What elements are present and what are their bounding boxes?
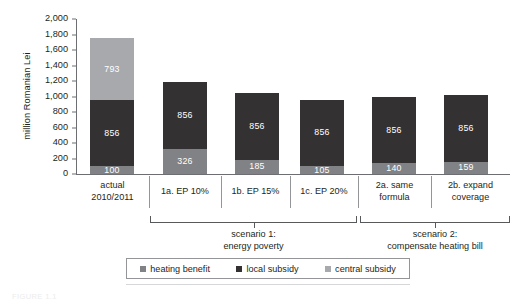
bar-segment-heating-benefit: 185: [235, 160, 279, 174]
category-label-line: 1a. EP 10%: [161, 186, 209, 198]
legend-item-label: local subsidy: [246, 264, 298, 274]
legend-item[interactable]: heating benefit: [140, 264, 210, 274]
y-axis-tick-label: 0: [63, 169, 68, 178]
category-label: 2b. expandcoverage: [431, 175, 510, 208]
stacked-bar-chart: million Romanian Lei 02004006008001,0001…: [0, 0, 518, 301]
category-divider: [221, 176, 222, 208]
category-label: 1b. EP 15%: [221, 175, 290, 208]
bar-segment-value: 856: [386, 126, 401, 135]
bar-stack: 856159: [444, 95, 488, 174]
y-axis-tick-label: 200: [53, 154, 68, 163]
category-divider: [431, 176, 432, 208]
y-axis-tick-label: 400: [53, 138, 68, 147]
chart-legend: heating benefitlocal subsidycentral subs…: [126, 258, 410, 279]
bar-stack: 856185: [235, 93, 279, 174]
legend-item-label: central subsidy: [335, 264, 396, 274]
bar-segment-value: 185: [249, 162, 264, 171]
bar-segment-value: 140: [386, 164, 401, 173]
y-axis-tick-label: 1,600: [45, 45, 68, 54]
bar-segment-value: 856: [249, 122, 264, 131]
y-axis-ticks: 02004006008001,0001,2001,4001,6001,8002,…: [30, 0, 76, 301]
scenario-label-line: scenario 2:: [335, 229, 518, 241]
legend-swatch-icon: [236, 266, 242, 272]
scenario-label: scenario 1:energy poverty: [150, 229, 357, 252]
category-label-line: coverage: [452, 192, 489, 204]
bar-segment-value: 793: [104, 65, 119, 74]
caption-rule: [126, 284, 410, 285]
bar-segment-heating-benefit: 140: [372, 163, 416, 174]
bar-segment-central-subsidy: 793: [90, 38, 134, 99]
bar-segment-value: 159: [458, 163, 473, 172]
bar-segment-value: 100: [104, 166, 119, 174]
y-axis-tick-label: 600: [53, 123, 68, 132]
bar-segment-local-subsidy: 856: [163, 82, 207, 148]
legend-item-label: heating benefit: [150, 264, 210, 274]
scenario-bracket-stem: [435, 222, 436, 228]
category-label: actual2010/2011: [76, 175, 149, 208]
y-axis-tick-label: 1,000: [45, 92, 68, 101]
category-label: 2a. sameformula: [358, 175, 431, 208]
figure-caption: FIGURE 1.1: [12, 292, 57, 301]
bar-stack: 856140: [372, 97, 416, 174]
category-divider: [358, 176, 359, 208]
bar-segment-heating-benefit: 326: [163, 149, 207, 174]
legend-swatch-icon: [140, 266, 146, 272]
category-divider: [290, 176, 291, 208]
category-label-line: 2b. expand: [448, 180, 493, 192]
scenario-label-line: compensate heating bill: [335, 241, 518, 253]
category-label-line: 2a. same: [376, 180, 413, 192]
plot-area: 793856100856326856185856105856140856159: [76, 19, 510, 174]
bar-segment-heating-benefit: 100: [90, 166, 134, 174]
bar-segment-heating-benefit: 105: [300, 166, 344, 174]
bar-segment-local-subsidy: 856: [444, 95, 488, 161]
bar-segment-local-subsidy: 856: [90, 100, 134, 166]
y-axis-tick-label: 1,400: [45, 61, 68, 70]
category-label-line: 1c. EP 20%: [300, 186, 347, 198]
scenario-label: scenario 2:compensate heating bill: [335, 229, 518, 252]
y-axis-tick-label: 1,800: [45, 30, 68, 39]
bar-segment-heating-benefit: 159: [444, 162, 488, 174]
bar-segment-value: 105: [314, 166, 329, 174]
scenario-label-line: scenario 1:: [150, 229, 357, 241]
legend-swatch-icon: [325, 266, 331, 272]
bar-stack: 856105: [300, 100, 344, 174]
bar-stack: 793856100: [90, 38, 134, 174]
y-axis-tick-label: 1,200: [45, 76, 68, 85]
category-label-line: actual: [100, 180, 124, 192]
y-axis-tick-label: 800: [53, 107, 68, 116]
bar-stack: 856326: [163, 82, 207, 174]
legend-item[interactable]: local subsidy: [236, 264, 298, 274]
scenario-label-line: energy poverty: [150, 241, 357, 253]
category-label: 1a. EP 10%: [149, 175, 221, 208]
y-axis-tick-label: 2,000: [45, 14, 68, 23]
bar-segment-value: 856: [458, 124, 473, 133]
scenario-bracket-stem: [254, 222, 255, 228]
category-label-band: actual2010/20111a. EP 10%1b. EP 15%1c. E…: [76, 175, 510, 208]
bar-segment-local-subsidy: 856: [300, 100, 344, 166]
category-label-line: 2010/2011: [91, 192, 133, 204]
bar-segment-value: 856: [314, 128, 329, 137]
category-label-line: 1b. EP 15%: [232, 186, 280, 198]
bar-segment-value: 856: [177, 111, 192, 120]
category-label-line: formula: [379, 192, 409, 204]
category-divider: [149, 176, 150, 208]
legend-item[interactable]: central subsidy: [325, 264, 396, 274]
category-label: 1c. EP 20%: [290, 175, 358, 208]
bar-segment-local-subsidy: 856: [235, 93, 279, 159]
bar-segment-value: 326: [177, 157, 192, 166]
bar-segment-value: 856: [104, 129, 119, 138]
bar-segment-local-subsidy: 856: [372, 97, 416, 163]
